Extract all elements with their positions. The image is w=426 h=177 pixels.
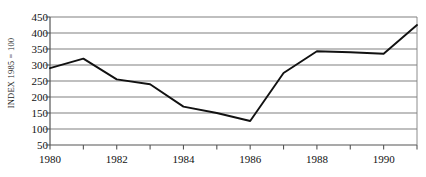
data-series-line	[50, 25, 417, 121]
x-axis-ticks	[50, 145, 417, 150]
line-chart: INDEX 1985 = 100 50100150200250300350400…	[0, 0, 426, 177]
y-axis-ticks	[46, 17, 51, 145]
plot-area	[0, 0, 426, 177]
